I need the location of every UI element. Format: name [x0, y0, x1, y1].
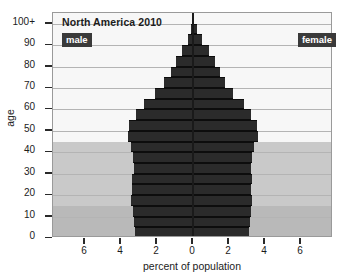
bar-female-55-59 [193, 109, 251, 120]
x-tick-mark-4 [263, 238, 265, 244]
bar-female-45-49 [193, 131, 258, 142]
bar-male-75-79 [171, 67, 193, 78]
y-tick-label: 0 [29, 230, 35, 241]
bar-male-65-69 [155, 88, 193, 99]
y-tick-label: 30 [24, 166, 35, 177]
y-tick-label: 90 [24, 37, 35, 48]
y-tick-mark [45, 87, 52, 89]
x-tick-mark-2 [227, 238, 229, 244]
legend-badge-female: female [298, 33, 336, 47]
y-axis-title: age [4, 98, 16, 138]
bar-female-70-74 [193, 77, 225, 88]
bar-female-0-4 [193, 227, 249, 237]
bar-male-0-4 [135, 227, 193, 237]
y-tick-mark [45, 172, 52, 174]
bar-female-25-29 [193, 174, 252, 185]
y-tick-mark [45, 44, 52, 46]
population-pyramid-chart: age 0102030405060708090100+ North Americ… [0, 0, 344, 276]
bar-male-45-49 [128, 131, 193, 142]
y-tick-mark [45, 129, 52, 131]
bar-male-35-39 [133, 152, 193, 163]
x-tick-label: 0 [182, 245, 202, 256]
x-tick-mark-2 [155, 238, 157, 244]
y-tick-mark [45, 237, 52, 239]
bar-female-60-64 [193, 99, 244, 110]
y-tick-label: 70 [24, 80, 35, 91]
bar-male-50-54 [129, 120, 193, 131]
x-tick-label: 6 [74, 245, 94, 256]
bar-male-10-14 [133, 206, 193, 217]
bar-male-40-44 [131, 142, 193, 153]
bar-female-30-34 [193, 163, 251, 174]
y-tick-label: 40 [24, 144, 35, 155]
bar-female-20-24 [193, 184, 251, 195]
y-tick-label: 80 [24, 59, 35, 70]
y-tick-mark [45, 22, 52, 24]
bar-female-75-79 [193, 67, 220, 78]
x-tick-label: 2 [146, 245, 166, 256]
x-axis-title: percent of population [52, 260, 332, 272]
y-tick-label: 100+ [12, 16, 35, 27]
x-tick-mark-6 [83, 238, 85, 244]
y-tick-mark [45, 65, 52, 67]
y-tick-label: 50 [24, 123, 35, 134]
y-tick-label: 20 [24, 187, 35, 198]
y-tick-label: 60 [24, 101, 35, 112]
bar-male-55-59 [136, 109, 193, 120]
bar-male-20-24 [132, 184, 193, 195]
x-tick-mark-4 [119, 238, 121, 244]
x-tick-label: 4 [110, 245, 130, 256]
chart-title: North America 2010 [62, 16, 162, 28]
x-tick-mark-0 [191, 238, 193, 244]
bar-male-30-34 [134, 163, 193, 174]
zero-axis-line [192, 13, 194, 236]
y-tick-mark [45, 151, 52, 153]
bar-female-65-69 [193, 88, 233, 99]
bar-male-80-84 [176, 56, 193, 67]
bar-male-15-19 [131, 195, 193, 206]
bar-female-85-89 [193, 45, 209, 56]
bar-female-5-9 [193, 217, 250, 228]
bar-female-10-14 [193, 206, 251, 217]
x-tick-mark-6 [299, 238, 301, 244]
y-tick-label: 10 [24, 209, 35, 220]
x-tick-label: 4 [254, 245, 274, 256]
bar-female-40-44 [193, 142, 254, 153]
legend-badge-male: male [62, 33, 92, 47]
y-tick-mark [45, 194, 52, 196]
bar-male-60-64 [144, 99, 193, 110]
bar-male-25-29 [132, 174, 193, 185]
bar-female-90-94 [193, 34, 202, 45]
x-tick-label: 2 [218, 245, 238, 256]
y-tick-mark [45, 215, 52, 217]
x-tick-label: 6 [290, 245, 310, 256]
bar-female-50-54 [193, 120, 257, 131]
plot-area [52, 12, 332, 237]
bar-female-15-19 [193, 195, 252, 206]
bar-male-70-74 [164, 77, 193, 88]
bar-female-80-84 [193, 56, 215, 67]
bar-female-35-39 [193, 152, 252, 163]
y-tick-mark [45, 108, 52, 110]
bar-male-5-9 [134, 217, 193, 228]
